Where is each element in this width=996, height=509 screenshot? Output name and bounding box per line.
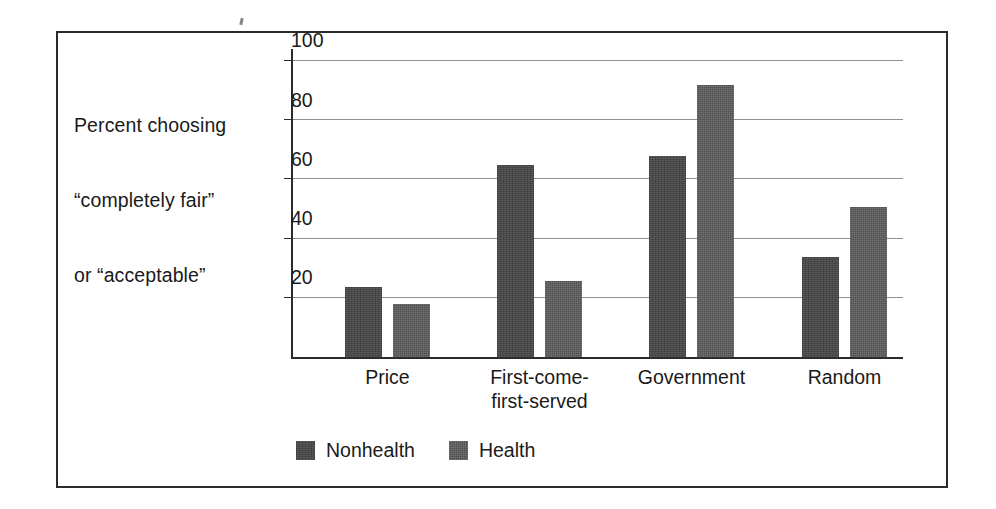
gridline-100	[293, 60, 903, 61]
legend-label-health: Health	[479, 441, 535, 461]
bar-first-come-first-served-nonhealth	[497, 165, 534, 357]
y-axis-caption-line-2: “completely fair”	[74, 188, 279, 213]
legend-item-health[interactable]: Health	[449, 441, 535, 461]
legend-swatch-nonhealth	[296, 441, 315, 460]
bar-government-nonhealth	[649, 156, 686, 357]
bar-price-nonhealth	[345, 287, 382, 357]
y-axis-caption-line-1: Percent choosing	[74, 113, 279, 138]
x-axis-category-labels: PriceFirst-come-first-servedGovernmentRa…	[291, 365, 903, 435]
bar-random-nonhealth	[802, 257, 839, 357]
legend-item-nonhealth[interactable]: Nonhealth	[296, 441, 415, 461]
category-label-random: Random	[808, 365, 882, 389]
category-label-line-2: first-served	[490, 389, 589, 413]
gridline-40	[293, 238, 903, 239]
category-label-line-1: First-come-	[490, 365, 589, 389]
category-label-government: Government	[638, 365, 745, 389]
bar-government-health	[697, 85, 734, 357]
chart-legend: NonhealthHealth	[296, 441, 535, 461]
y-axis-caption-line-3: or “acceptable”	[74, 263, 279, 288]
category-label-price: Price	[365, 365, 409, 389]
y-tick-mark-20	[284, 297, 291, 298]
plot-area: 20406080100	[291, 49, 903, 359]
y-axis-caption: Percent choosing “completely fair” or “a…	[74, 63, 279, 338]
legend-label-nonhealth: Nonhealth	[326, 441, 415, 461]
y-tick-mark-60	[284, 178, 291, 179]
gridline-60	[293, 178, 903, 179]
y-tick-mark-40	[284, 238, 291, 239]
category-label-line-1: Price	[365, 365, 409, 389]
category-label-first-come-first-served: First-come-first-served	[490, 365, 589, 413]
y-tick-mark-100	[284, 60, 291, 61]
category-label-line-1: Government	[638, 365, 745, 389]
category-label-line-1: Random	[808, 365, 882, 389]
bar-first-come-first-served-health	[545, 281, 582, 357]
x-axis-line	[291, 357, 903, 359]
bar-price-health	[393, 304, 430, 357]
scan-artifact-speck	[239, 18, 243, 25]
gridline-80	[293, 119, 903, 120]
bar-random-health	[850, 207, 887, 357]
figure-frame: Percent choosing “completely fair” or “a…	[56, 31, 948, 488]
y-tick-mark-80	[284, 119, 291, 120]
legend-swatch-health	[449, 441, 468, 460]
